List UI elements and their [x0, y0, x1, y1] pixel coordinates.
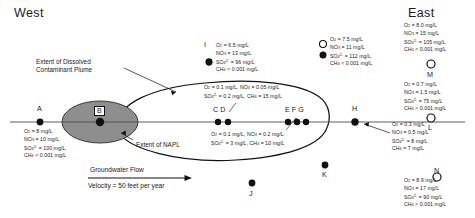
chem-east-no3: NO3 = 15 mg/L: [404, 30, 446, 38]
cd-leader: [229, 103, 236, 112]
plume-extent-line1: Extent of Dissolved: [36, 58, 92, 66]
well-point-c[interactable]: [215, 119, 221, 125]
velocity-label: Velocity = 50 feet per year: [88, 182, 164, 189]
chem-efg-line1: O2 = 0.1 mg/L, NO3 = 0.2 mg/L: [211, 131, 284, 139]
well-label-n: N: [434, 166, 439, 175]
chem-n-o2: O2 = 8.9 mg/L: [404, 177, 446, 185]
chem-h-o2: O2 = 0.3 mg/L: [392, 121, 429, 129]
well-label-j: J: [249, 189, 253, 198]
well-point-m[interactable]: [427, 60, 435, 68]
chemistry-block-cd: O2 = 0.1 mg/L, NO3 = 0.05 mg/L SO42- = 0…: [204, 84, 282, 100]
chem-cd-line2: SO42- = 0.2 mg/L, CH4 = 15 mg/L: [204, 92, 282, 101]
well-point-i-marker[interactable]: [206, 59, 213, 66]
chemistry-block-efg: O2 = 0.1 mg/L, NO3 = 0.2 mg/L SO42- = 3 …: [211, 131, 284, 147]
chem-east-so4: SO42- = 105 mg/L: [404, 38, 446, 47]
groundwater-flow-arrowhead: [185, 175, 193, 181]
chem-cd-line1: O2 = 0.1 mg/L, NO3 = 0.05 mg/L: [204, 84, 282, 92]
well-label-m: M: [427, 70, 433, 79]
chem-h-so4: SO42- = 8 mg/L: [392, 137, 429, 146]
chemistry-block-n: O2 = 8.9 mg/L NO3 = 17 mg/L SO42- = 90 m…: [404, 177, 446, 209]
well-point-h[interactable]: [351, 118, 358, 125]
diagram-canvas: West East Extent of Dissolved Contaminan…: [0, 0, 475, 218]
chemistry-block-m: O2 = 0.7 mg/L NO3 = 1.5 mg/L SO42- = 75 …: [404, 81, 446, 113]
chem-a-o2: O2 = 8 mg/L: [24, 128, 66, 136]
chem-upper-ch4: CH4 < 0.001 mg/L: [330, 60, 372, 68]
plume-extent-line2: Contaminant Plume: [36, 66, 92, 74]
chem-n-ch4: CH4 < 0.001 mg/L: [404, 201, 446, 209]
well-point-e[interactable]: [285, 119, 291, 125]
chem-a-ch4: CH4 < 0.001 mg/L: [24, 152, 66, 160]
h-leader-arrowhead: [364, 122, 369, 127]
plume-callout-leader: [124, 68, 176, 92]
chem-i-ch4: CH4 < 0.001 mg/L: [216, 66, 258, 74]
chemistry-block-east-top: O2 = 8.0 mg/L NO3 = 15 mg/L SO42- = 105 …: [404, 22, 446, 54]
groundwater-flow-label: Groundwater Flow: [90, 166, 144, 173]
well-point-j[interactable]: [249, 180, 256, 187]
well-label-k: K: [322, 170, 327, 179]
chem-m-ch4: CH4 < 0.001 mg/L: [404, 105, 446, 113]
well-point-filled-upper[interactable]: [320, 52, 327, 59]
chem-m-so4: SO42- = 75 mg/L: [404, 97, 446, 106]
chem-m-o2: O2 = 0.7 mg/L: [404, 81, 446, 89]
well-point-b[interactable]: [96, 118, 104, 126]
well-point-k[interactable]: [322, 162, 329, 169]
well-point-a[interactable]: [37, 119, 44, 126]
well-label-efg: E F G: [285, 105, 304, 114]
well-label-i: I: [204, 40, 206, 49]
well-label-b: B: [94, 106, 105, 116]
chem-i-so4: SO42- = 96 mg/L: [216, 58, 258, 67]
well-point-f[interactable]: [294, 119, 300, 125]
well-point-g[interactable]: [303, 119, 309, 125]
well-label-cd: C D: [213, 105, 225, 114]
chemistry-block-i: O2 = 6.5 mg/L NO3 = 13 mg/L SO42- = 96 m…: [216, 42, 258, 74]
well-point-open-upper[interactable]: [320, 41, 327, 48]
chem-m-no3: NO3 = 1.5 mg/L: [404, 89, 446, 97]
chem-upper-no3: NO3 = 11 mg/L: [330, 44, 372, 52]
napl-extent-annotation: Extent of NAPL: [136, 141, 180, 149]
chem-h-no3: NO3 = 0.5 mg/L: [392, 129, 429, 137]
chem-a-no3: NO3 = 10 mg/L: [24, 136, 66, 144]
chem-upper-o2: O2 = 7.5 mg/L: [330, 36, 372, 44]
east-direction-label: East: [408, 6, 435, 20]
chem-east-o2: O2 = 8.0 mg/L: [404, 22, 446, 30]
chem-i-o2: O2 = 6.5 mg/L: [216, 42, 258, 50]
chem-h-ch4: CH4 = 7 mg/L: [392, 145, 429, 153]
chem-n-no3: NO3 = 17 mg/L: [404, 185, 446, 193]
chemistry-block-a: O2 = 8 mg/L NO3 = 10 mg/L SO42- = 100 mg…: [24, 128, 66, 160]
plume-extent-annotation: Extent of Dissolved Contaminant Plume: [36, 58, 92, 74]
chem-upper-so4: SO42- = 112 mg/L: [330, 52, 372, 61]
chem-i-no3: NO3 = 13 mg/L: [216, 50, 258, 58]
chem-east-ch4: CH4 < 0.001 mg/L: [404, 46, 446, 54]
chem-a-so4: SO42- = 100 mg/L: [24, 144, 66, 153]
chemistry-block-upper-pair: O2 = 7.5 mg/L NO3 = 11 mg/L SO42- = 112 …: [330, 36, 372, 68]
chemistry-block-h: O2 = 0.3 mg/L NO3 = 0.5 mg/L SO42- = 8 m…: [392, 121, 429, 153]
well-point-d[interactable]: [225, 119, 231, 125]
chem-n-so4: SO42- = 90 mg/L: [404, 193, 446, 202]
west-direction-label: West: [14, 6, 44, 20]
well-label-h: H: [352, 104, 357, 113]
well-label-a: A: [37, 104, 42, 113]
chem-efg-line2: SO42- = 3 mg/L, CH4 = 10 mg/L: [211, 139, 284, 148]
